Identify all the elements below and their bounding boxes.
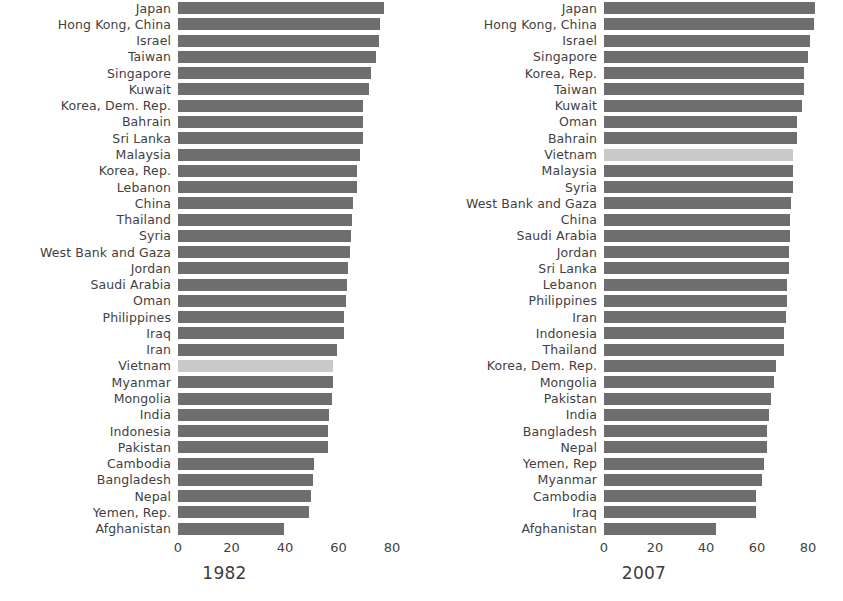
bar	[178, 18, 380, 30]
bar	[604, 67, 804, 79]
x-axis-ticks-2007: 020406080	[604, 537, 843, 563]
category-label: Jordan	[421, 246, 604, 259]
category-label: Bahrain	[421, 132, 604, 145]
bar	[178, 51, 376, 63]
bar-row: Iran	[421, 309, 843, 325]
bar	[178, 295, 346, 307]
bar	[604, 425, 767, 437]
bar	[178, 100, 363, 112]
category-label: Thailand	[421, 343, 604, 356]
bar-track	[178, 228, 421, 244]
x-tick-label: 40	[698, 541, 715, 555]
category-label: Lebanon	[0, 181, 178, 194]
bar-track	[178, 293, 421, 309]
bar	[604, 441, 767, 453]
bar-track	[178, 504, 421, 520]
bar-row: Vietnam	[421, 146, 843, 162]
bar	[604, 18, 814, 30]
life-expectancy-bar-chart-figure: JapanHong Kong, ChinaIsraelTaiwanSingapo…	[0, 0, 843, 601]
bar	[604, 2, 815, 14]
category-label: Pakistan	[0, 441, 178, 454]
category-label: Saudi Arabia	[421, 229, 604, 242]
bar-row: Thailand	[421, 342, 843, 358]
category-label: Korea, Dem. Rep.	[0, 99, 178, 112]
bar-row: Syria	[421, 179, 843, 195]
bar-row: Japan	[421, 0, 843, 16]
bar-row: Jordan	[0, 260, 421, 276]
bar-row: Malaysia	[0, 146, 421, 162]
category-label: Korea, Dem. Rep.	[421, 359, 604, 372]
category-label: Kuwait	[421, 99, 604, 112]
bar-highlighted	[604, 149, 793, 161]
bar-row: Iran	[0, 342, 421, 358]
bar	[604, 490, 756, 502]
bar	[604, 506, 756, 518]
bar-row: Oman	[421, 114, 843, 130]
bar-track	[604, 407, 843, 423]
bar-row: West Bank and Gaza	[0, 244, 421, 260]
bar	[604, 474, 762, 486]
bar	[604, 165, 793, 177]
bar-track	[178, 472, 421, 488]
bar	[604, 393, 771, 405]
bar	[604, 311, 786, 323]
category-label: Myanmar	[0, 376, 178, 389]
bar	[178, 311, 344, 323]
bar-row: Syria	[0, 228, 421, 244]
x-axis-1982: 020406080	[0, 537, 421, 563]
category-label: Mongolia	[0, 392, 178, 405]
bar-row: Korea, Dem. Rep.	[0, 98, 421, 114]
bar-track	[178, 260, 421, 276]
category-label: Iran	[0, 343, 178, 356]
bar-track	[178, 277, 421, 293]
bar	[178, 506, 309, 518]
bar	[178, 425, 328, 437]
bar-row: Israel	[0, 33, 421, 49]
category-label: Israel	[421, 34, 604, 47]
bar-row: Bahrain	[0, 114, 421, 130]
bar	[604, 360, 776, 372]
chart-panel-1982: JapanHong Kong, ChinaIsraelTaiwanSingapo…	[0, 0, 421, 601]
bar-track	[178, 309, 421, 325]
category-label: Lebanon	[421, 278, 604, 291]
category-label: Korea, Rep.	[0, 164, 178, 177]
bar-row: Thailand	[0, 211, 421, 227]
bar-row: Myanmar	[0, 374, 421, 390]
category-label: Nepal	[0, 490, 178, 503]
category-label: Nepal	[421, 441, 604, 454]
bar	[178, 83, 369, 95]
bar-track	[604, 277, 843, 293]
category-label: China	[0, 197, 178, 210]
bar-track	[604, 211, 843, 227]
category-label: Iraq	[0, 327, 178, 340]
bar-track	[178, 521, 421, 537]
category-label: Philippines	[421, 294, 604, 307]
bar	[604, 376, 774, 388]
category-label: Japan	[421, 2, 604, 15]
bar	[178, 523, 284, 535]
bar-track	[604, 81, 843, 97]
bar	[604, 458, 764, 470]
bar-track	[178, 374, 421, 390]
category-label: West Bank and Gaza	[0, 246, 178, 259]
bar	[178, 181, 357, 193]
category-label: Afghanistan	[0, 522, 178, 535]
x-tick-label: 20	[647, 541, 664, 555]
bar-row: China	[421, 211, 843, 227]
plot-area-2007: JapanHong Kong, ChinaIsraelSingaporeKore…	[421, 0, 843, 537]
bar	[178, 230, 351, 242]
bar-row: Pakistan	[421, 390, 843, 406]
category-label: Yemen, Rep.	[0, 506, 178, 519]
bar-row: Sri Lanka	[421, 260, 843, 276]
bar-track	[178, 130, 421, 146]
bar-row: Iraq	[421, 504, 843, 520]
category-label: Indonesia	[0, 425, 178, 438]
category-label: Bahrain	[0, 115, 178, 128]
bar-track	[178, 114, 421, 130]
bar-track	[178, 98, 421, 114]
bar	[604, 230, 790, 242]
bar-row: Afghanistan	[0, 521, 421, 537]
bar-track	[178, 390, 421, 406]
bar-track	[604, 179, 843, 195]
bar-track	[604, 114, 843, 130]
